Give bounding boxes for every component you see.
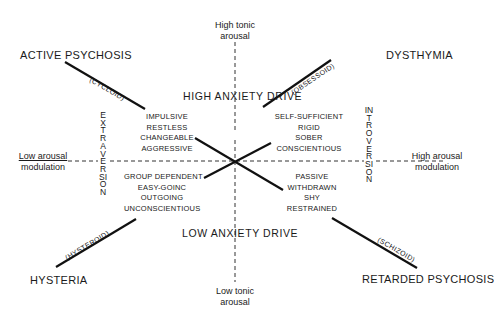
diagonal-line-a — [195, 138, 283, 190]
top-axis-label: High tonic arousal — [205, 20, 265, 42]
traits-top-right: SELF-SUFFICIENT RIGID SOBER CONSCIENTIOU… — [272, 112, 346, 154]
introversion-label: INTROVERSION — [364, 107, 374, 184]
traits-bottom-right: PASSIVE WITHDRAWN SHY RESTRAINED — [282, 172, 342, 214]
top-axis-line1: High tonic — [205, 20, 265, 31]
trait-item: PASSIVE — [282, 172, 342, 183]
trait-item: SHY — [282, 193, 342, 204]
traits-bottom-left: GROUP DEPENDENT EASY-GOINC OUTGOING UNCO… — [124, 172, 200, 214]
left-axis-label: Low arousal modulation — [12, 151, 74, 173]
trait-item: AGGRESSIVE — [132, 144, 202, 155]
right-axis-line2: modulation — [402, 162, 472, 173]
trait-item: SOBER — [272, 133, 346, 144]
traits-top-left: IMPULSIVE RESTLESS CHANGEABLE AGGRESSIVE — [132, 112, 202, 154]
trait-item: RESTRAINED — [282, 204, 342, 215]
left-axis-line2: modulation — [12, 162, 74, 173]
top-axis-line2: arousal — [205, 31, 265, 42]
dysthymia-label: DYSTHYMIA — [386, 49, 453, 61]
active-psychosis-label: ACTIVE PSYCHOSIS — [20, 49, 132, 61]
bottom-axis-line1: Low tonic — [205, 286, 265, 297]
trait-item: RESTLESS — [132, 123, 202, 134]
trait-item: EASY-GOINC — [124, 183, 200, 194]
trait-item: RIGID — [272, 123, 346, 134]
trait-item: UNCONSCIENTIOUS — [124, 204, 200, 215]
hysteria-label: HYSTERIA — [30, 274, 87, 286]
right-axis-line1: High arousal — [402, 151, 472, 162]
bottom-axis-line2: arousal — [205, 297, 265, 308]
trait-item: SELF-SUFFICIENT — [272, 112, 346, 123]
bottom-axis-label: Low tonic arousal — [205, 286, 265, 308]
trait-item: IMPULSIVE — [132, 112, 202, 123]
extraversion-label: EXTRAVERSION — [98, 112, 108, 197]
trait-item: GROUP DEPENDENT — [124, 172, 200, 183]
right-axis-label: High arousal modulation — [402, 151, 472, 173]
high-anxiety-drive-label: HIGH ANXIETY DRIVE — [183, 90, 302, 102]
schizoid-line — [332, 218, 417, 268]
trait-item: CONSCIENTIOUS — [272, 144, 346, 155]
retarded-psychosis-label: RETARDED PSYCHOSIS — [362, 273, 494, 285]
trait-item: WITHDRAWN — [282, 183, 342, 194]
low-anxiety-drive-label: LOW ANXIETY DRIVE — [182, 227, 298, 239]
trait-item: OUTGOING — [124, 193, 200, 204]
trait-item: CHANGEABLE — [132, 133, 202, 144]
left-axis-line1: Low arousal — [12, 151, 74, 162]
